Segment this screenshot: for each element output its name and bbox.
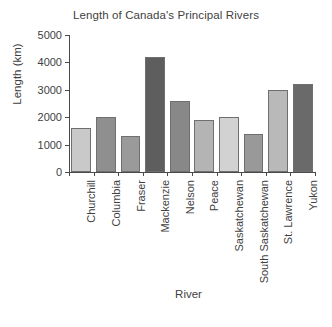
bar <box>244 134 264 172</box>
x-tick <box>315 172 316 176</box>
bar <box>96 117 116 172</box>
x-tick <box>192 172 193 176</box>
bar <box>268 90 288 172</box>
x-tick <box>94 172 95 176</box>
x-tick <box>290 172 291 176</box>
y-tick-label: 0 <box>56 166 62 178</box>
x-tick <box>69 172 70 176</box>
y-axis-label: Length (km) <box>11 24 23 124</box>
y-tick <box>65 35 69 36</box>
chart-title: Length of Canada's Principal Rivers <box>0 9 332 21</box>
y-axis-line <box>69 35 70 172</box>
x-tick-label: Nelson <box>184 180 196 214</box>
y-tick-label: 3000 <box>38 84 62 96</box>
x-tick <box>217 172 218 176</box>
y-tick <box>65 145 69 146</box>
y-tick-label: 2000 <box>38 111 62 123</box>
x-tick-label: Columbia <box>110 180 122 226</box>
y-tick-label: 1000 <box>38 139 62 151</box>
x-tick-label: Yukon <box>307 180 319 211</box>
x-tick <box>266 172 267 176</box>
y-tick-label: 4000 <box>38 56 62 68</box>
y-tick <box>65 117 69 118</box>
bar <box>194 120 214 172</box>
x-tick <box>118 172 119 176</box>
bar <box>170 101 190 172</box>
x-tick <box>167 172 168 176</box>
bar <box>121 136 141 172</box>
bar <box>71 128 91 172</box>
x-tick-label: Mackenzie <box>159 180 171 233</box>
x-tick <box>143 172 144 176</box>
x-tick-label: St. Lawrence <box>282 180 294 244</box>
x-tick-label: Peace <box>208 180 220 211</box>
plot-area: 010002000300040005000 ChurchillColumbiaF… <box>69 35 315 172</box>
y-tick <box>65 62 69 63</box>
x-tick-label: Saskatchewan <box>233 180 245 252</box>
bar-chart-figure: Length of Canada's Principal Rivers Leng… <box>0 0 332 327</box>
x-tick-label: South Saskatchewan <box>258 180 270 283</box>
y-tick <box>65 90 69 91</box>
bar <box>293 84 313 172</box>
bar <box>219 117 239 172</box>
x-tick <box>241 172 242 176</box>
y-tick-label: 5000 <box>38 29 62 41</box>
x-tick-label: Fraser <box>135 180 147 212</box>
bar <box>145 57 165 172</box>
x-tick-label: Churchill <box>85 180 97 223</box>
x-axis-label: River <box>62 288 315 300</box>
